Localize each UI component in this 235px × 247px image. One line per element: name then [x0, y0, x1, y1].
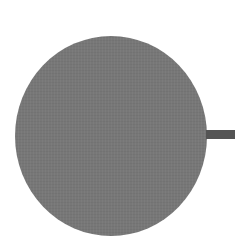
circle-node: [15, 36, 207, 236]
connector-line: [206, 130, 235, 139]
diagram-canvas: [0, 0, 235, 247]
